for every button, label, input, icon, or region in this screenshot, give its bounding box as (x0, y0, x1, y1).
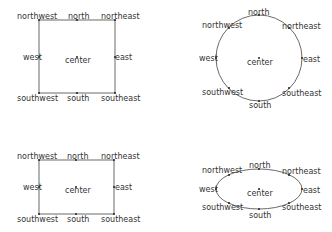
label-northeast: northeast (282, 167, 321, 176)
label-southeast: southeast (282, 203, 321, 212)
label-northwest: northwest (202, 166, 242, 175)
label-center: center (65, 186, 91, 195)
label-north: north (67, 152, 88, 161)
label-west: west (199, 185, 218, 194)
label-east: east (115, 183, 132, 192)
rectangle-diagram-bottom: northwest north northeast west center ea… (17, 152, 140, 224)
label-north: north (249, 161, 270, 170)
label-center: center (247, 58, 273, 67)
circle-diagram-top: north northwest northeast west center ea… (199, 8, 321, 110)
label-center: center (65, 56, 91, 65)
label-northeast: northeast (101, 12, 140, 21)
label-northeast: northeast (101, 152, 140, 161)
label-southwest: southwest (17, 215, 58, 224)
label-south: south (67, 215, 89, 224)
label-south: south (249, 211, 271, 220)
label-east: east (303, 186, 320, 195)
label-southeast: southeast (101, 215, 140, 224)
label-east: east (303, 55, 320, 64)
label-northwest: northwest (202, 21, 242, 30)
label-south: south (249, 101, 271, 110)
label-west: west (23, 183, 42, 192)
label-west: west (199, 54, 218, 63)
label-southwest: southwest (202, 88, 243, 97)
label-northeast: northeast (282, 22, 321, 31)
label-south: south (67, 94, 89, 103)
anchor-diagrams: northwest north northeast west center ea… (0, 0, 332, 232)
label-southeast: southeast (282, 89, 321, 98)
label-northwest: northwest (17, 152, 57, 161)
label-southwest: southwest (202, 203, 243, 212)
label-west: west (23, 53, 42, 62)
label-north: north (68, 12, 89, 21)
ellipse-diagram-bottom: north northwest northeast west center ea… (199, 161, 321, 220)
rectangle-diagram-top: northwest north northeast west center ea… (17, 12, 140, 103)
label-northwest: northwest (17, 12, 57, 21)
label-north: north (248, 8, 269, 17)
label-southeast: southeast (101, 94, 140, 103)
label-center: center (247, 189, 273, 198)
label-southwest: southwest (17, 94, 58, 103)
label-east: east (115, 53, 132, 62)
